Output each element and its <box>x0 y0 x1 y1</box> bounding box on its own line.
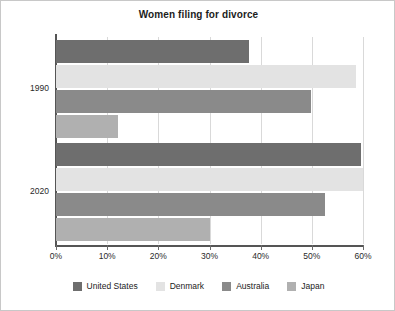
bar <box>56 40 249 63</box>
x-axis-tick-label: 30% <box>201 251 218 261</box>
legend-swatch-icon <box>156 282 165 291</box>
x-axis-tick <box>210 245 211 250</box>
x-axis-tick <box>158 245 159 250</box>
y-axis-category-label: 2020 <box>1 186 49 196</box>
legend-swatch-icon <box>222 282 231 291</box>
x-axis-tick-label: 60% <box>354 251 371 261</box>
x-axis-tick <box>107 245 108 250</box>
plot-area <box>56 37 363 244</box>
legend-item[interactable]: Denmark <box>156 281 204 291</box>
gridline <box>363 37 364 244</box>
x-axis-tick <box>312 245 313 250</box>
x-axis-tick <box>56 245 57 250</box>
bar <box>56 193 325 216</box>
y-axis-category-label: 1990 <box>1 83 49 93</box>
x-axis-tick-label: 0% <box>50 251 62 261</box>
chart-title: Women filing for divorce <box>1 9 395 20</box>
bar <box>56 143 361 166</box>
legend-item[interactable]: Australia <box>222 281 269 291</box>
x-axis-tick-label: 20% <box>150 251 167 261</box>
bar <box>56 218 210 241</box>
legend-swatch-icon <box>287 282 296 291</box>
bar <box>56 90 311 113</box>
chart-container: Women filing for divorce 0%10%20%30%40%5… <box>0 0 395 311</box>
legend-label: United States <box>87 281 138 291</box>
x-axis-tick-label: 50% <box>303 251 320 261</box>
legend-item[interactable]: Japan <box>287 281 324 291</box>
x-axis-tick-label: 40% <box>252 251 269 261</box>
legend-swatch-icon <box>73 282 82 291</box>
bar <box>56 115 118 138</box>
bar <box>56 168 363 191</box>
chart-legend: United StatesDenmarkAustraliaJapan <box>1 281 395 291</box>
legend-label: Japan <box>301 281 324 291</box>
bar <box>56 65 356 88</box>
x-axis-tick <box>363 245 364 250</box>
x-axis-tick <box>261 245 262 250</box>
x-axis-tick-label: 10% <box>99 251 116 261</box>
legend-item[interactable]: United States <box>73 281 138 291</box>
legend-label: Denmark <box>170 281 204 291</box>
legend-label: Australia <box>236 281 269 291</box>
